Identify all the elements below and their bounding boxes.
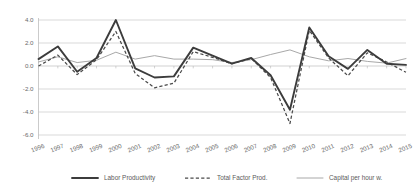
x-tick-label: 2005 (204, 142, 220, 154)
line-chart: 4.02.00.0-2.0-4.0-6.0 199619971998199920… (0, 0, 414, 190)
x-tick-label: 2003 (165, 142, 181, 154)
x-tick-label: 1999 (88, 142, 104, 154)
legend-label-1: Total Factor Prod. (217, 174, 268, 181)
x-tick-label: 1997 (49, 142, 65, 154)
x-tick-label: 2002 (146, 142, 162, 154)
y-tick-label: 0.0 (25, 62, 34, 69)
legend-label-2: Capital per hour w. (329, 174, 383, 182)
y-tick-label: -4.0 (23, 108, 34, 115)
data-series (39, 20, 407, 124)
x-tick-label: 2001 (127, 142, 143, 154)
x-tick-label: 2006 (223, 142, 239, 154)
x-tick-label: 1998 (69, 142, 85, 154)
x-axis-tick-labels: 1996199719981999200020012002200320042005… (30, 142, 413, 154)
legend-label-0: Labor Productivity (104, 174, 156, 182)
x-tick-label: 2004 (185, 142, 201, 154)
x-tick-label: 2011 (320, 142, 335, 154)
x-tick-label: 1996 (30, 142, 46, 154)
x-tick-label: 2000 (107, 142, 123, 154)
y-tick-label: -6.0 (23, 131, 34, 138)
x-tick-label: 2010 (301, 142, 317, 154)
y-tick-label: -2.0 (23, 85, 34, 92)
y-axis-tick-labels: 4.02.00.0-2.0-4.0-6.0 (23, 16, 34, 138)
y-tick-label: 2.0 (25, 39, 34, 46)
x-tick-label: 2012 (339, 142, 355, 154)
x-tick-label: 2008 (262, 142, 278, 154)
x-tick-label: 2007 (243, 142, 259, 154)
x-tick-label: 2014 (378, 142, 394, 154)
y-tick-label: 4.0 (25, 16, 34, 23)
x-tick-label: 2015 (397, 142, 413, 154)
gridlines (39, 20, 407, 135)
x-tick-label: 2009 (281, 142, 297, 154)
series-line-labor-productivity (39, 20, 407, 110)
chart-legend: Labor ProductivityTotal Factor Prod.Capi… (72, 174, 383, 182)
x-tick-label: 2013 (359, 142, 375, 154)
series-line-total-factor-prod (39, 30, 407, 123)
chart-container: 4.02.00.0-2.0-4.0-6.0 199619971998199920… (0, 0, 414, 190)
